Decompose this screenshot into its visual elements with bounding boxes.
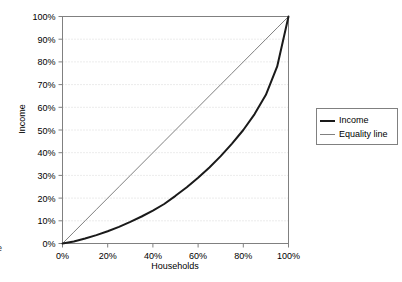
y-tick-label-40: 40%	[37, 148, 55, 158]
x-tick-label-100: 100%	[277, 251, 300, 261]
x-tick-label-0: 0%	[56, 251, 69, 261]
y-tick-label-20: 20%	[37, 194, 55, 204]
legend-item-equality-line: Equality line	[320, 127, 397, 141]
y-tick-label-30: 30%	[37, 171, 55, 181]
y-tick-label-70: 70%	[37, 80, 55, 90]
x-tick-label-20: 20%	[99, 251, 117, 261]
y-tick-label-80: 80%	[37, 57, 55, 67]
left-edge-cropped-glyph: e	[0, 243, 2, 253]
equality-line-swatch	[320, 130, 335, 138]
x-tick-label-40: 40%	[144, 251, 162, 261]
y-tick-label-60: 60%	[37, 103, 55, 113]
x-tick-label-80: 80%	[234, 251, 252, 261]
y-tick-label-90: 90%	[37, 35, 55, 45]
y-tick-label-50: 50%	[37, 126, 55, 136]
x-axis-title: Households	[115, 261, 235, 271]
income-line-swatch	[320, 116, 335, 124]
chart-legend: Income Equality line	[316, 108, 398, 145]
y-axis-title: Income	[17, 89, 27, 149]
y-tick-label-10: 10%	[37, 216, 55, 226]
legend-label-equality-line: Equality line	[339, 129, 388, 139]
legend-label-income: Income	[339, 115, 369, 125]
y-tick-label-100: 100%	[32, 12, 55, 22]
chart-screenshot: 0%10%20%30%40%50%60%70%80%90%100% 0%20%4…	[0, 0, 402, 282]
y-tick-label-0: 0%	[42, 239, 55, 249]
legend-item-income: Income	[320, 113, 397, 127]
x-tick-label-60: 60%	[189, 251, 207, 261]
